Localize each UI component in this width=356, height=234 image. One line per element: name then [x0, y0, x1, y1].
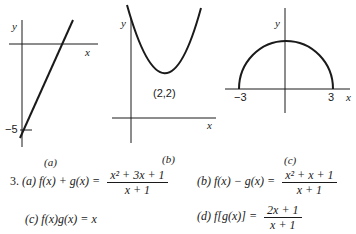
part-b-numerator: x² + x + 1 [282, 168, 336, 183]
part-c-lhs: f(x)g(x) = x [41, 212, 96, 226]
part-b-lhs: f(x) − g(x) = [214, 174, 275, 188]
equation-a: 3. (a) f(x) + g(x) = x² + 3x + 1 x + 1 [10, 168, 168, 197]
equation-b: (b) f(x) − g(x) = x² + x + 1 x + 1 [197, 168, 337, 197]
part-a-label: (a) [22, 174, 36, 188]
graph-c-right-label: 3 [328, 91, 334, 103]
graph-b-y-label: y [121, 17, 126, 29]
part-d-fraction: 2x + 1 x + 1 [264, 203, 301, 232]
graph-b-vertex-label: (2,2) [153, 87, 176, 99]
graph-c-y-label: y [275, 17, 280, 29]
graph-b-x-label: x [207, 119, 212, 131]
part-d-label: (d) [197, 209, 211, 223]
part-b-fraction: x² + x + 1 x + 1 [282, 168, 336, 197]
graph-a-x-label: x [85, 46, 90, 58]
graph-b-caption: (b) [162, 153, 175, 165]
graph-a-line [20, 20, 73, 138]
graph-a [9, 20, 98, 147]
part-a-lhs: f(x) + g(x) = [39, 174, 100, 188]
equation-d: (d) f[g(x)] = 2x + 1 x + 1 [197, 203, 302, 232]
part-d-denominator: x + 1 [264, 218, 301, 232]
part-a-fraction: x² + 3x + 1 x + 1 [107, 168, 167, 197]
part-d-lhs: f[g(x)] = [214, 209, 257, 223]
part-b-denominator: x + 1 [282, 183, 336, 197]
graph-c-caption: (c) [284, 154, 296, 166]
graph-a-y-label: y [12, 20, 17, 32]
part-c-label: (c) [25, 212, 38, 226]
part-b-label: (b) [197, 174, 211, 188]
part-a-numerator: x² + 3x + 1 [107, 168, 167, 183]
graph-a-caption: (a) [44, 156, 57, 168]
graphs-figure [0, 0, 356, 234]
graph-c-x-label: x [346, 91, 351, 103]
graph-b [112, 5, 216, 143]
graph-c-semicircle [239, 41, 333, 89]
graph-a-intercept-label: −5 [5, 123, 18, 135]
graph-b-parabola [127, 5, 201, 73]
part-a-denominator: x + 1 [107, 183, 167, 197]
graph-c-left-label: −3 [234, 91, 247, 103]
part-d-numerator: 2x + 1 [264, 203, 301, 218]
problem-number: 3. [10, 174, 19, 188]
equation-c: (c) f(x)g(x) = x [25, 212, 97, 227]
